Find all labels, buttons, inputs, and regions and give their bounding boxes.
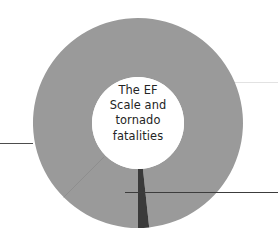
donut-chart-svg [0,0,278,243]
donut-chart: The EF Scale and tornado fatalities [0,0,278,243]
donut-hole [92,77,184,169]
